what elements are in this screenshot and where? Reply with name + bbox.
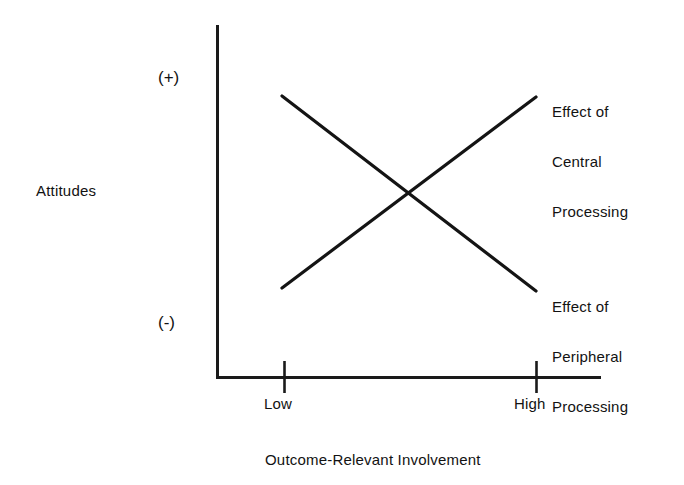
x-tick-label-high: High	[514, 396, 546, 413]
series-label-central-processing: Effect of Central Processing	[552, 70, 628, 255]
series-label-peripheral-line1: Effect of	[552, 299, 628, 316]
series-label-central-line3: Processing	[552, 204, 628, 221]
y-tick-label-positive: (+)	[158, 68, 179, 87]
series-label-peripheral-line3: Processing	[552, 399, 628, 416]
series-label-peripheral-processing: Effect of Peripheral Processing	[552, 265, 628, 450]
y-axis-title: Attitudes	[36, 183, 96, 200]
x-axis-title: Outcome-Relevant Involvement	[265, 452, 481, 469]
series-label-central-line1: Effect of	[552, 104, 628, 121]
x-tick-label-low: Low	[264, 396, 292, 413]
series-label-peripheral-line2: Peripheral	[552, 349, 628, 366]
series-label-central-line2: Central	[552, 154, 628, 171]
chart-figure: Attitudes (+) (-) Low High Outcome-Relev…	[0, 0, 684, 485]
y-tick-label-negative: (-)	[158, 313, 175, 332]
